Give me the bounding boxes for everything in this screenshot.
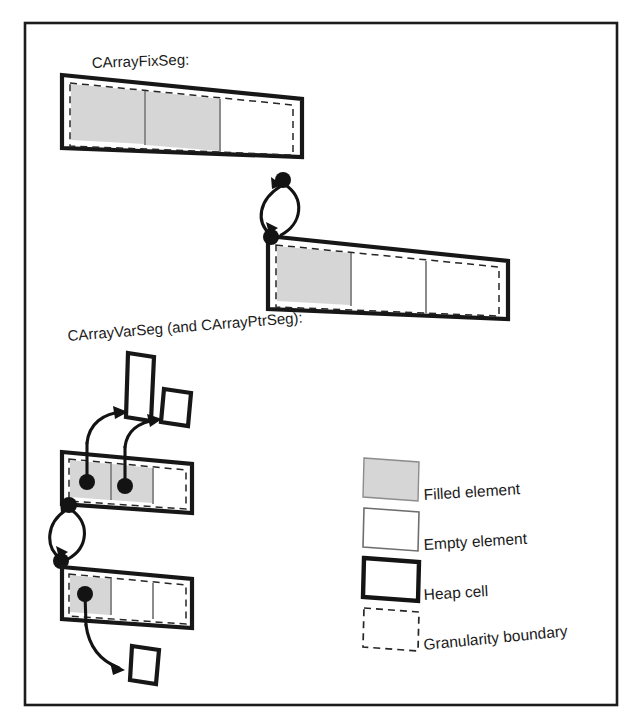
fix-segment-2 — [268, 236, 508, 319]
var-segment-link — [50, 497, 85, 569]
legend-item-empty-element: Empty element — [363, 508, 528, 553]
fix-segment-link — [261, 172, 299, 245]
fix-segment-1-element-1-filled — [71, 84, 144, 144]
fix-segment-2-element-1-filled — [277, 246, 350, 305]
granularity-swatch-icon — [363, 608, 419, 651]
var-segment-2-pointer-stem — [85, 594, 86, 625]
var-segment-2-pointer-arrowhead — [110, 662, 125, 675]
var-cell-bottom-heap-cell — [130, 646, 159, 684]
var-cell-small-heap-cell — [161, 389, 191, 426]
filled-swatch-icon — [363, 458, 419, 501]
legend-label-empty-element: Empty element — [423, 530, 528, 553]
legend: Filled element Empty element Heap cell G… — [363, 458, 569, 653]
var-segment-2-pointer-arrow — [86, 625, 119, 668]
figure-root: CArrayFixSeg: CArrayVarSeg (and CArrayPt… — [0, 0, 641, 726]
svg-text:CArrayVarSeg (and CArrayPtrSeg: CArrayVarSeg (and CArrayPtrSeg): — [67, 309, 303, 344]
fix-segment-1-next-pointer-dot — [275, 172, 291, 188]
fixseg-label: CArrayFixSeg: — [92, 51, 190, 71]
fix-segment-2-prev-pointer-dot — [263, 229, 279, 245]
legend-label-granularity-boundary: Granularity boundary — [423, 622, 569, 653]
varseg-label: CArrayVarSeg (and CArrayPtrSeg): — [67, 309, 303, 344]
empty-swatch-icon — [363, 508, 419, 551]
legend-item-granularity-boundary: Granularity boundary — [363, 608, 569, 653]
legend-item-heap-cell: Heap cell — [363, 558, 489, 603]
var-segment-1-next-pointer-dot — [61, 497, 77, 513]
array-segment-diagram: CArrayFixSeg: CArrayVarSeg (and CArrayPt… — [0, 0, 641, 726]
var-cell-tall-heap-cell — [126, 353, 154, 421]
legend-label-heap-cell: Heap cell — [423, 582, 489, 603]
var-segment-1 — [62, 452, 192, 513]
fix-segment-1-element-2-filled — [146, 91, 219, 151]
var-external-cells-top — [126, 353, 191, 426]
var-link-arrow-up — [68, 509, 84, 559]
svg-text:CArrayFixSeg:: CArrayFixSeg: — [92, 51, 190, 71]
heap-cell-swatch-icon — [363, 558, 419, 601]
fix-segment-1 — [62, 75, 302, 157]
fix-link-arrow-up — [281, 184, 299, 235]
legend-item-filled-element: Filled element — [363, 458, 521, 503]
legend-label-filled-element: Filled element — [423, 480, 521, 503]
var-segment-2 — [62, 567, 192, 628]
